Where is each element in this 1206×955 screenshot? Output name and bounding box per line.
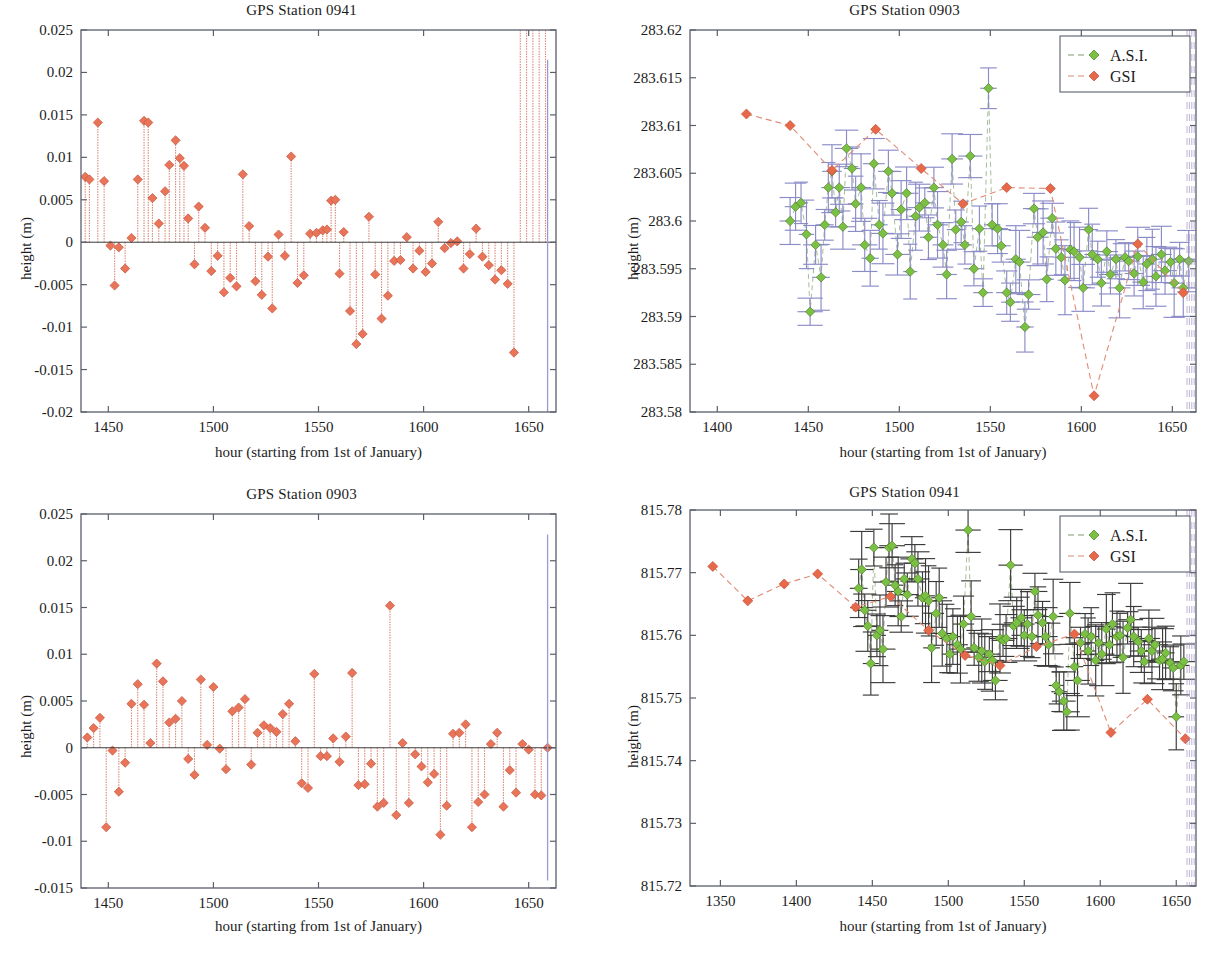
svg-text:815.72: 815.72 (641, 878, 682, 894)
svg-text:283.58: 283.58 (641, 404, 682, 420)
legend-label-asi: A.S.I. (1110, 527, 1148, 544)
svg-text:1500: 1500 (933, 893, 963, 909)
svg-text:1650: 1650 (1157, 419, 1187, 435)
x-axis-label: hour (starting from 1st of January) (81, 444, 556, 461)
plot-area: 14501500155016001650-0.015-0.01-0.00500.… (0, 478, 603, 955)
svg-text:283.59: 283.59 (641, 309, 682, 325)
svg-text:0: 0 (66, 740, 74, 756)
svg-text:0.005: 0.005 (39, 693, 73, 709)
svg-text:1550: 1550 (304, 895, 334, 911)
svg-text:-0.005: -0.005 (34, 787, 73, 803)
svg-text:-0.005: -0.005 (34, 277, 73, 293)
y-axis-label: height (m) (625, 705, 642, 768)
panel-title: GPS Station 0941 (603, 484, 1206, 501)
svg-text:1600: 1600 (1085, 893, 1115, 909)
svg-text:1450: 1450 (93, 419, 123, 435)
figure-canvas: GPS Station 0941 height (m) hour (starti… (0, 0, 1206, 955)
svg-text:1650: 1650 (1161, 893, 1191, 909)
chart-legend: A.S.I.GSI (1060, 36, 1190, 92)
y-axis-label: height (m) (18, 695, 35, 758)
svg-text:1400: 1400 (781, 893, 811, 909)
svg-text:1550: 1550 (1009, 893, 1039, 909)
svg-text:815.76: 815.76 (641, 627, 683, 643)
chart-legend: A.S.I.GSI (1060, 516, 1190, 572)
plot-area: 1350140014501500155016001650815.72815.73… (603, 478, 1206, 955)
svg-text:1350: 1350 (705, 893, 735, 909)
chart-panel-top-left: GPS Station 0941 height (m) hour (starti… (0, 0, 603, 478)
panel-title: GPS Station 0903 (603, 2, 1206, 19)
svg-text:1550: 1550 (975, 419, 1005, 435)
svg-text:815.78: 815.78 (641, 502, 682, 518)
legend-label-gsi: GSI (1110, 548, 1136, 565)
svg-text:1600: 1600 (1066, 419, 1096, 435)
chart-panel-top-right: GPS Station 0903 height (m) hour (starti… (603, 0, 1206, 478)
svg-text:1450: 1450 (857, 893, 887, 909)
y-axis-label: height (m) (18, 217, 35, 280)
svg-text:283.605: 283.605 (633, 165, 682, 181)
svg-text:815.73: 815.73 (641, 815, 682, 831)
svg-text:1550: 1550 (304, 419, 334, 435)
svg-text:0.02: 0.02 (47, 64, 73, 80)
svg-text:283.6: 283.6 (648, 213, 682, 229)
svg-text:815.74: 815.74 (641, 753, 683, 769)
svg-text:-0.01: -0.01 (42, 833, 73, 849)
svg-text:283.585: 283.585 (633, 356, 682, 372)
svg-text:0.01: 0.01 (47, 149, 73, 165)
svg-text:-0.015: -0.015 (34, 362, 73, 378)
x-axis-label: hour (starting from 1st of January) (703, 444, 1183, 461)
y-axis-label: height (m) (625, 217, 642, 280)
svg-text:1450: 1450 (793, 419, 823, 435)
svg-text:815.77: 815.77 (641, 565, 683, 581)
svg-text:1500: 1500 (198, 895, 228, 911)
svg-text:283.615: 283.615 (633, 70, 682, 86)
chart-panel-bottom-right: GPS Station 0941 height (m) hour (starti… (603, 478, 1206, 955)
svg-text:1400: 1400 (702, 419, 732, 435)
svg-text:1500: 1500 (198, 419, 228, 435)
legend-label-asi: A.S.I. (1110, 47, 1148, 64)
legend-label-gsi: GSI (1110, 68, 1136, 85)
chart-panel-bottom-left: GPS Station 0903 height (m) hour (starti… (0, 478, 603, 955)
svg-text:1650: 1650 (514, 419, 544, 435)
svg-text:0.015: 0.015 (39, 107, 73, 123)
svg-text:-0.015: -0.015 (34, 880, 73, 896)
svg-text:0.025: 0.025 (39, 22, 73, 38)
panel-title: GPS Station 0941 (0, 2, 603, 19)
svg-text:0.005: 0.005 (39, 192, 73, 208)
svg-text:283.61: 283.61 (641, 118, 682, 134)
svg-text:1600: 1600 (409, 895, 439, 911)
svg-text:283.62: 283.62 (641, 22, 682, 38)
x-axis-label: hour (starting from 1st of January) (81, 918, 556, 935)
x-axis-label: hour (starting from 1st of January) (703, 918, 1183, 935)
svg-text:1650: 1650 (514, 895, 544, 911)
svg-text:0.025: 0.025 (39, 506, 73, 522)
panel-title: GPS Station 0903 (0, 486, 603, 503)
svg-text:-0.01: -0.01 (42, 319, 73, 335)
svg-text:1450: 1450 (93, 895, 123, 911)
svg-text:1500: 1500 (884, 419, 914, 435)
svg-text:0.015: 0.015 (39, 600, 73, 616)
svg-text:0.02: 0.02 (47, 553, 73, 569)
plot-area: 14501500155016001650-0.02-0.015-0.01-0.0… (0, 0, 603, 478)
svg-text:815.75: 815.75 (641, 690, 682, 706)
plot-area: 140014501500155016001650283.58283.585283… (603, 0, 1206, 478)
svg-text:-0.02: -0.02 (42, 404, 73, 420)
svg-text:0: 0 (66, 234, 74, 250)
svg-text:0.01: 0.01 (47, 646, 73, 662)
svg-text:1600: 1600 (409, 419, 439, 435)
